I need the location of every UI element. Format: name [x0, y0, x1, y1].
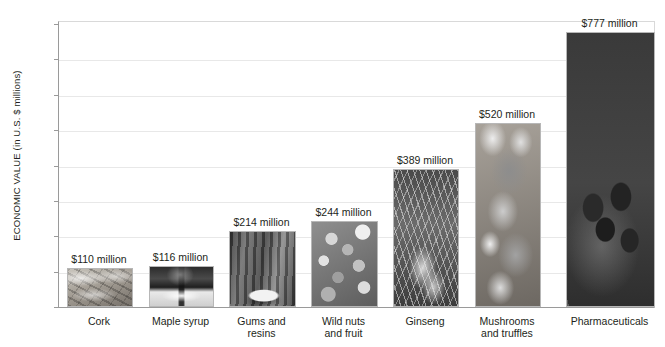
bar	[149, 266, 214, 307]
category-label-line: Ginseng	[405, 315, 444, 327]
bar	[229, 231, 296, 307]
bar-value-label: $244 million	[315, 207, 371, 218]
category-label: Gums andresins	[237, 315, 285, 339]
category-label: Pharmaceuticals	[571, 315, 649, 327]
gridline	[59, 202, 654, 203]
bar-value-label: $520 million	[479, 109, 535, 120]
category-label: Cork	[88, 315, 110, 327]
maple-syrup-pouring-photo	[150, 267, 213, 306]
gridline	[59, 60, 654, 61]
bar-value-label: $777 million	[581, 18, 637, 29]
cork-bales-photo	[68, 269, 132, 306]
category-label: Ginseng	[405, 315, 444, 327]
gridline	[59, 96, 654, 97]
category-label-line: and truffles	[480, 327, 535, 339]
bar	[67, 268, 133, 307]
category-label-line: Mushrooms	[480, 315, 535, 327]
bar-value-label: $214 million	[233, 217, 289, 228]
economic-value-bar-chart: ECONOMIC VALUE (in U.S. $ millions) 0100…	[0, 0, 665, 347]
ginseng-roots-photo	[394, 170, 458, 306]
bar	[475, 123, 541, 307]
gridline	[59, 131, 654, 132]
pharmaceutical-plant-berries-photo	[567, 33, 654, 306]
wild-nuts-and-fruit-photo	[312, 222, 377, 306]
category-label-line: resins	[237, 327, 285, 339]
category-label: Mushroomsand truffles	[480, 315, 535, 339]
category-label-line: Wild nuts	[322, 315, 365, 327]
category-label-line: and fruit	[322, 327, 365, 339]
category-label-line: Gums and	[237, 315, 285, 327]
bar	[311, 221, 378, 307]
category-label-line: Cork	[88, 315, 110, 327]
category-label-line: Pharmaceuticals	[571, 315, 649, 327]
y-axis-title: ECONOMIC VALUE (in U.S. $ millions)	[11, 56, 22, 256]
gridline	[59, 167, 654, 168]
plot-area	[58, 21, 655, 308]
resin-tapping-tree-photo	[230, 232, 295, 306]
bar-value-label: $110 million	[71, 254, 126, 265]
bar	[393, 169, 459, 307]
category-label-line: Maple syrup	[152, 315, 209, 327]
mushrooms-and-truffles-photo	[476, 124, 540, 306]
bar-value-label: $116 million	[153, 252, 208, 263]
bar-value-label: $389 million	[397, 155, 453, 166]
category-label: Wild nutsand fruit	[322, 315, 365, 339]
bar	[566, 32, 655, 307]
category-label: Maple syrup	[152, 315, 209, 327]
